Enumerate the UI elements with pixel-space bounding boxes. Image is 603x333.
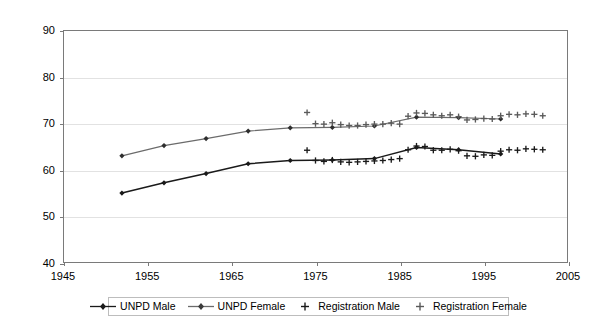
- x-axis-tick-label: 1985: [377, 271, 423, 282]
- legend-label: UNPD Female: [218, 301, 286, 312]
- plus-marker-icon: [412, 301, 428, 312]
- series-unpd-male: [119, 145, 503, 196]
- line-diamond-icon: [90, 301, 116, 312]
- y-axis-tick-label: 60: [25, 165, 55, 176]
- x-axis-tick-label: 1965: [208, 271, 254, 282]
- y-axis-tick-label: 40: [25, 258, 55, 269]
- plus-marker-icon: [297, 301, 313, 312]
- y-axis-tick-label: 50: [25, 211, 55, 222]
- chart-data-layer: [63, 30, 568, 263]
- line-diamond-icon: [188, 301, 214, 312]
- x-axis-tick-label: 1975: [293, 271, 339, 282]
- legend-item-unpd-female[interactable]: UNPD Female: [188, 301, 286, 312]
- legend-item-registration-female[interactable]: Registration Female: [412, 301, 527, 312]
- legend-item-unpd-male[interactable]: UNPD Male: [90, 301, 175, 312]
- y-axis-tick-label: 90: [25, 25, 55, 36]
- x-axis-tick-label: 1955: [124, 271, 170, 282]
- legend-label: Registration Male: [318, 301, 400, 312]
- x-axis-tick: [569, 262, 570, 266]
- y-axis-tick-label: 70: [25, 118, 55, 129]
- legend-label: Registration Female: [433, 301, 527, 312]
- legend-item-registration-male[interactable]: Registration Male: [297, 301, 400, 312]
- chart-legend: UNPD Male UNPD Female Registration Male: [108, 297, 509, 316]
- chart-container: 405060708090 194519551965197519851995200…: [0, 0, 603, 333]
- x-axis-tick-label: 1995: [461, 271, 507, 282]
- x-axis-tick-label: 1945: [40, 271, 86, 282]
- x-axis-tick-label: 2005: [545, 271, 591, 282]
- y-axis-tick-label: 80: [25, 72, 55, 83]
- series-unpd-female: [119, 115, 503, 159]
- series-registration-male: [304, 143, 546, 166]
- legend-label: UNPD Male: [120, 301, 175, 312]
- series-registration-female: [304, 109, 546, 128]
